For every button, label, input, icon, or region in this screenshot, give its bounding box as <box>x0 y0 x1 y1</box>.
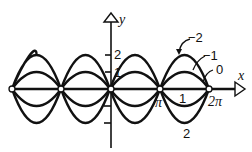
function-family-diagram: y x 2 1 π 2π −2 −1 0 1 2 <box>0 0 252 152</box>
x-axis-arrow-icon <box>235 82 245 96</box>
zero-point-2pi <box>206 86 212 92</box>
y-axis-label: y <box>117 12 126 27</box>
curve-label-0: 0 <box>216 62 223 77</box>
curve-label-2: 2 <box>183 126 190 141</box>
zero-point-pi <box>157 86 163 92</box>
curve-label-neg2: −2 <box>188 30 203 45</box>
y-tick-label-2: 2 <box>114 47 121 62</box>
zero-point-neg2pi <box>9 86 15 92</box>
curve-label-1: 1 <box>179 91 186 106</box>
leader-neg2-arrow-icon <box>176 49 182 55</box>
x-tick-label-2pi: 2π <box>208 94 223 109</box>
curve-label-neg1: −1 <box>203 48 218 63</box>
zero-point-negpi <box>58 86 64 92</box>
x-tick-label-pi: π <box>155 95 163 110</box>
zero-point-origin <box>108 86 114 92</box>
x-axis-label: x <box>237 68 245 83</box>
y-tick-label-1: 1 <box>114 65 121 80</box>
y-axis-arrow-icon <box>104 13 118 22</box>
